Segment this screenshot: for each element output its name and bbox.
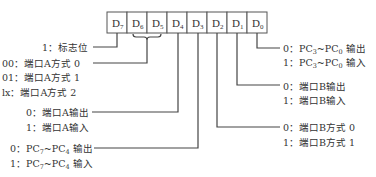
connector-d4	[92, 33, 178, 112]
bracket-d6-d5	[133, 34, 161, 40]
svg-text:lx：端口A方式 2: lx：端口A方式 2	[2, 87, 76, 98]
svg-text:0：PC7~PC4 输出: 0：PC7~PC4 输出	[10, 143, 93, 156]
svg-text:1：端口A输入: 1：端口A输入	[26, 122, 89, 133]
annotation-d4: 0：端口A输出 1：端口A输入	[26, 107, 89, 133]
svg-text:1：PC3~PC0 输入: 1：PC3~PC0 输入	[283, 57, 366, 70]
bit-cell-d4: D4	[167, 12, 187, 33]
bit-cell-d0: D0	[247, 12, 267, 33]
connector-d1	[237, 33, 280, 85]
svg-text:1：端口B方式 1: 1：端口B方式 1	[283, 137, 355, 148]
connector-d2	[217, 33, 280, 127]
control-word-diagram: D7 D6 D5 D4 D3 D2 D1 D0	[0, 0, 376, 177]
bit-cell-d7: D7	[107, 12, 127, 33]
annotation-d3: 0：PC7~PC4 输出 1：PC7~PC4 输入	[10, 143, 93, 171]
connector-d6-d5	[93, 40, 147, 63]
annotation-d0: 0：PC3~PC0 输出 1：PC3~PC0 输入	[283, 43, 366, 70]
svg-text:0：端口B输出: 0：端口B输出	[283, 81, 346, 92]
svg-text:0：端口A输出: 0：端口A输出	[26, 107, 89, 118]
connector-d7	[93, 33, 117, 47]
annotation-d7: 1：标志位	[42, 42, 88, 53]
annotation-d1: 0：端口B输出 1：端口B输入	[283, 81, 346, 106]
bit-cell-d5: D5	[147, 12, 167, 33]
bit-cell-d2: D2	[207, 12, 227, 33]
svg-text:1：标志位: 1：标志位	[42, 42, 88, 53]
svg-text:1：PC7~PC4 输入: 1：PC7~PC4 输入	[10, 158, 93, 171]
bit-cell-d6: D6	[127, 12, 147, 33]
svg-text:00：端口A方式 0: 00：端口A方式 0	[2, 58, 80, 69]
svg-text:0：端口B方式 0: 0：端口B方式 0	[283, 122, 355, 133]
connector-lines	[92, 33, 280, 148]
svg-text:0：PC3~PC0 输出: 0：PC3~PC0 输出	[283, 43, 366, 56]
annotation-d6-d5: 00：端口A方式 0 01：端口A方式 1 lx：端口A方式 2	[2, 58, 80, 98]
svg-text:01：端口A方式 1: 01：端口A方式 1	[2, 72, 80, 83]
svg-text:1：端口B输入: 1：端口B输入	[283, 95, 346, 106]
register-box: D7 D6 D5 D4 D3 D2 D1 D0	[107, 12, 267, 33]
annotation-d2: 0：端口B方式 0 1：端口B方式 1	[283, 122, 355, 148]
connector-d3	[94, 33, 198, 148]
bit-cell-d3: D3	[187, 12, 207, 33]
connector-d0	[257, 33, 280, 48]
bit-cell-d1: D1	[227, 12, 247, 33]
